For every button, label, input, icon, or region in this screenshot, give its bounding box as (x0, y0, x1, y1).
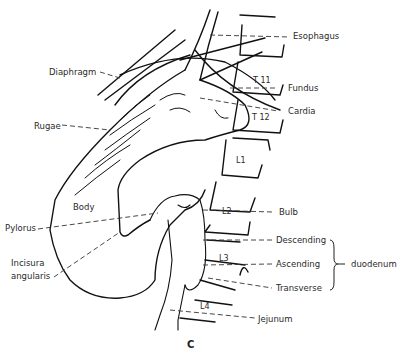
figure-caption: C (187, 339, 194, 350)
stomach-anatomy-diagram (0, 0, 400, 353)
label-ascending: Ascending (276, 260, 320, 269)
label-descending: Descending (276, 236, 326, 245)
label-fundus: Fundus (288, 84, 318, 93)
label-esophagus: Esophagus (293, 32, 339, 41)
label-duodenum: duodenum (351, 260, 397, 269)
label-bulb: Bulb (279, 208, 298, 217)
vertebra-t11: T 11 (253, 77, 271, 85)
label-transverse: Transverse (276, 284, 322, 293)
vertebra-l2: L2 (222, 208, 232, 216)
label-jejunum: Jejunum (258, 315, 293, 324)
vertebral-column (180, 15, 284, 322)
duodenum-brace (330, 240, 345, 290)
vertebra-l1: L1 (236, 157, 246, 165)
label-pylorus: Pylorus (5, 224, 36, 233)
label-diaphragm: Diaphragm (49, 68, 96, 77)
duodenum-outline (150, 195, 206, 330)
diaphragm-lines (98, 30, 280, 110)
esophagus-outline (185, 10, 210, 70)
rugae-folds (75, 93, 228, 195)
label-cardia: Cardia (288, 107, 315, 116)
label-incisura-1: Incisura (11, 259, 44, 268)
label-rugae: Rugae (34, 122, 61, 131)
vertebra-l4: L4 (200, 303, 210, 311)
label-body: Body (73, 203, 94, 212)
vertebra-l3: L3 (219, 255, 229, 263)
vertebra-t12: T 12 (252, 114, 270, 122)
stomach-outline (50, 70, 205, 298)
label-incisura-2: angularis (11, 272, 50, 281)
